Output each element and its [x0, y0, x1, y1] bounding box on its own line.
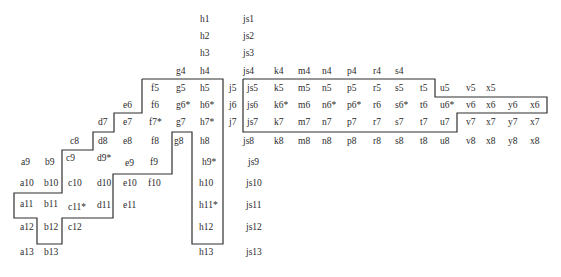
- cell-label: s5: [395, 83, 403, 93]
- cell-label: x7: [486, 117, 496, 127]
- cell-label: js1: [243, 14, 254, 24]
- cell-label: k6*: [274, 100, 288, 110]
- cell-label: c12: [68, 222, 82, 232]
- cell-label: t5: [420, 83, 427, 93]
- cell-label: v8: [466, 136, 476, 146]
- cell-label: d9*: [97, 153, 111, 163]
- cell-label: j7: [229, 117, 236, 127]
- cell-label: x7: [530, 117, 540, 127]
- cell-label: h13: [199, 247, 213, 257]
- cell-label: n5: [322, 83, 332, 93]
- cell-label: b11: [44, 199, 58, 209]
- cell-label: d7: [98, 117, 108, 127]
- cell-label: p7: [347, 117, 357, 127]
- cell-label: s7: [395, 117, 403, 127]
- cell-label: e9: [125, 158, 134, 168]
- cell-label: u8: [440, 136, 450, 146]
- cell-label: c11*: [68, 202, 86, 212]
- cell-label: k4: [274, 66, 284, 76]
- cell-label: b9: [45, 157, 55, 167]
- cell-label: s6*: [395, 100, 408, 110]
- cell-label: h5: [200, 83, 210, 93]
- cell-label: p5: [347, 83, 357, 93]
- cell-label: a11: [20, 199, 33, 209]
- cell-label: r7: [373, 117, 381, 127]
- cell-label: g5: [176, 83, 186, 93]
- cell-label: u7: [440, 117, 450, 127]
- cell-label: a13: [20, 247, 34, 257]
- cell-label: js10: [246, 178, 262, 188]
- cell-label: u5: [440, 83, 450, 93]
- cell-label: f7*: [149, 117, 162, 127]
- cell-label: n4: [322, 66, 332, 76]
- cell-label: t8: [420, 136, 427, 146]
- cell-label: k7: [274, 117, 284, 127]
- cell-label: x8: [486, 136, 496, 146]
- cell-label: n7: [322, 117, 332, 127]
- cell-label: m8: [298, 136, 310, 146]
- cell-label: f10: [148, 178, 161, 188]
- cell-label: p4: [347, 66, 357, 76]
- cell-label: h3: [200, 48, 210, 58]
- cell-label: h7*: [200, 117, 214, 127]
- cell-label: js13: [246, 247, 262, 257]
- cell-label: js6: [247, 100, 258, 110]
- cell-label: h12: [199, 222, 213, 232]
- cell-label: r6: [373, 100, 381, 110]
- cell-label: m7: [298, 117, 310, 127]
- cell-label: h8: [200, 136, 210, 146]
- cell-label: b12: [44, 222, 58, 232]
- cell-label: y6: [508, 100, 518, 110]
- cell-label: g7: [176, 117, 186, 127]
- cell-label: h9*: [202, 157, 216, 167]
- cell-label: d8: [98, 136, 108, 146]
- cell-label: j5: [229, 83, 236, 93]
- cell-label: x8: [530, 136, 540, 146]
- cell-label: h11*: [199, 200, 218, 210]
- cell-label: s8: [395, 136, 403, 146]
- diagram-canvas: h1js1h2js2h3js3g4h4js4k4m4n4p4r4s4f5g5h5…: [0, 0, 561, 277]
- cell-label: js9: [248, 157, 259, 167]
- cell-label: js5: [247, 83, 258, 93]
- cell-label: h10: [199, 178, 213, 188]
- cell-label: r4: [373, 66, 381, 76]
- cell-label: m5: [298, 83, 310, 93]
- cell-label: b10: [44, 178, 58, 188]
- cell-label: x6: [530, 100, 540, 110]
- cell-label: a10: [20, 178, 34, 188]
- cell-label: m4: [298, 66, 310, 76]
- cell-label: v6: [466, 100, 476, 110]
- cell-label: m6: [298, 100, 310, 110]
- cell-label: h6*: [200, 100, 214, 110]
- cell-label: g8: [174, 136, 184, 146]
- cell-label: g4: [176, 66, 186, 76]
- cell-label: f8: [151, 136, 159, 146]
- cell-label: c10: [68, 178, 82, 188]
- cell-label: js11: [246, 200, 261, 210]
- cell-label: e8: [123, 136, 132, 146]
- cell-label: b13: [44, 247, 58, 257]
- cell-label: h1: [200, 14, 210, 24]
- cell-label: g6*: [176, 100, 190, 110]
- cell-label: p6*: [347, 100, 361, 110]
- cell-label: e11: [123, 200, 136, 210]
- cell-label: a12: [20, 222, 34, 232]
- cell-label: h2: [200, 31, 210, 41]
- cell-label: js8: [243, 136, 254, 146]
- cell-label: js3: [243, 48, 254, 58]
- cell-label: js4: [243, 66, 254, 76]
- cell-label: t7: [420, 117, 427, 127]
- cell-label: d11: [97, 200, 111, 210]
- cell-label: n6*: [322, 100, 336, 110]
- cell-label: h4: [200, 66, 210, 76]
- cell-label: y7: [508, 117, 518, 127]
- cell-label: u6*: [440, 100, 454, 110]
- cell-label: js12: [246, 222, 262, 232]
- cell-label: t6: [420, 100, 427, 110]
- cell-label: v5: [466, 83, 476, 93]
- cell-label: e10: [123, 178, 137, 188]
- cell-label: a9: [21, 157, 30, 167]
- cell-label: d10: [97, 178, 111, 188]
- cell-label: e7: [123, 117, 132, 127]
- cell-label: k5: [274, 83, 284, 93]
